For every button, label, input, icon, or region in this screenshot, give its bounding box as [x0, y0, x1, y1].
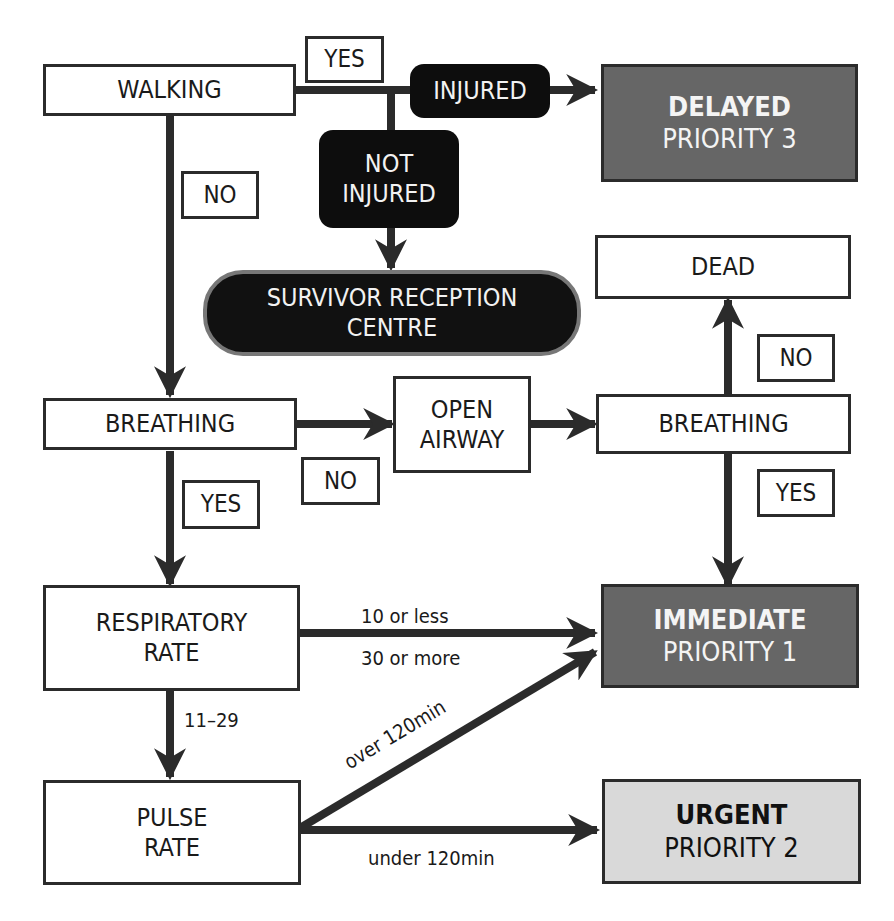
resp-high-label: 30 or more: [361, 646, 460, 670]
resp-mid-label: 11–29: [184, 708, 239, 732]
walking-text: WALKING: [117, 75, 221, 105]
urgent-title: URGENT: [676, 799, 788, 831]
breathing1-no-label: NO: [301, 457, 380, 505]
immediate-priority: PRIORITY 1: [663, 636, 798, 668]
walking-node: WALKING: [43, 64, 296, 116]
breathing2-node: BREATHING: [596, 394, 851, 454]
pulse-under-label: under 120min: [368, 846, 495, 870]
injured-node: INJURED: [410, 64, 550, 118]
immediate-title: IMMEDIATE: [653, 604, 806, 636]
immediate-priority-1-node: IMMEDIATE PRIORITY 1: [601, 584, 859, 688]
dead-node: DEAD: [595, 235, 851, 299]
breathing2-yes-label: YES: [757, 469, 835, 517]
delayed-priority: PRIORITY 3: [662, 123, 797, 155]
survivor-reception-centre-node: SURVIVOR RECEPTION CENTRE: [203, 270, 581, 356]
respiratory-rate-node: RESPIRATORY RATE: [43, 585, 300, 691]
walking-yes-label: YES: [305, 36, 384, 83]
open-airway-node: OPEN AIRWAY: [393, 376, 531, 473]
breathing1-yes-label: YES: [182, 480, 260, 529]
breathing2-no-label: NO: [757, 334, 835, 382]
walking-no-label: NO: [181, 171, 259, 219]
not-injured-node: NOT INJURED: [319, 130, 459, 228]
pulse-rate-node: PULSE RATE: [43, 780, 301, 885]
urgent-priority-2-node: URGENT PRIORITY 2: [602, 779, 861, 884]
resp-low-label: 10 or less: [361, 604, 449, 628]
urgent-priority: PRIORITY 2: [664, 832, 799, 864]
delayed-title: DELAYED: [668, 91, 791, 123]
breathing-node: BREATHING: [43, 398, 297, 450]
delayed-priority-3-node: DELAYED PRIORITY 3: [601, 64, 858, 182]
edge-pulse-immediate: [300, 652, 595, 828]
